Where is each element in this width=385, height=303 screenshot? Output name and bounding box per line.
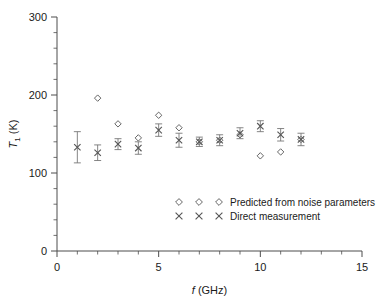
marker-cross	[176, 213, 183, 220]
x-tick-label: 10	[254, 261, 266, 273]
y-tick-label: 300	[29, 11, 47, 23]
legend-label: Predicted from noise parameters	[230, 197, 375, 208]
marker-diamond	[155, 112, 161, 118]
legend-entry: Predicted from noise parameters	[176, 197, 375, 208]
y-axis-title: T1 (K)	[7, 120, 22, 149]
marker-diamond	[196, 199, 203, 206]
series-diamond	[94, 95, 304, 159]
y-tick-label: 100	[29, 167, 47, 179]
marker-diamond	[176, 199, 183, 206]
axis-titles: f (GHz)T1 (K)	[7, 120, 227, 296]
data-markers	[74, 95, 305, 163]
marker-diamond	[277, 149, 283, 155]
scatter-plot: 0510150100200300 Predicted from noise pa…	[0, 0, 385, 303]
marker-diamond	[216, 199, 223, 206]
marker-diamond	[176, 125, 182, 131]
x-tick-label: 5	[156, 261, 162, 273]
y-tick-label: 0	[41, 245, 47, 257]
marker-cross	[216, 213, 223, 220]
legend: Predicted from noise parametersDirect me…	[176, 197, 375, 222]
x-axis-title: f (GHz)	[192, 284, 227, 296]
marker-diamond	[135, 135, 141, 141]
legend-entry: Direct measurement	[176, 211, 321, 222]
x-tick-label: 0	[54, 261, 60, 273]
marker-diamond	[115, 121, 121, 127]
series-cross	[74, 121, 305, 163]
x-tick-label: 15	[356, 261, 368, 273]
chart-figure: 0510150100200300 Predicted from noise pa…	[0, 0, 385, 303]
y-tick-label: 200	[29, 89, 47, 101]
marker-diamond	[94, 95, 100, 101]
marker-diamond	[257, 153, 263, 159]
marker-cross	[196, 213, 203, 220]
legend-label: Direct measurement	[230, 211, 320, 222]
